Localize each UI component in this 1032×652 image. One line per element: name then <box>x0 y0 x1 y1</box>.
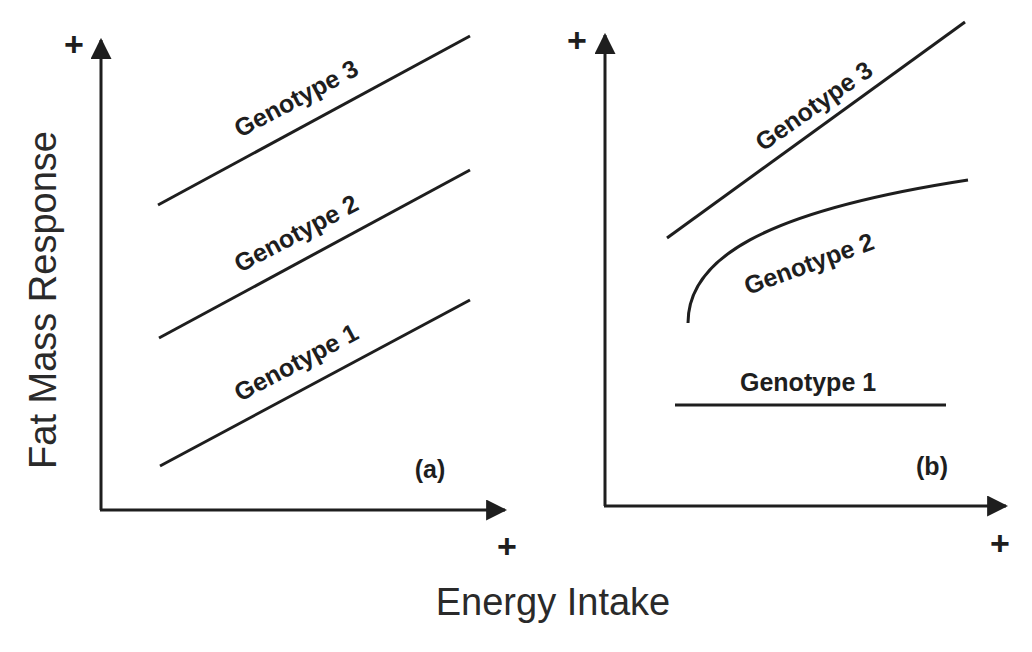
panel-a-genotype-3-line <box>158 36 470 205</box>
y-axis-title: Fat Mass Response <box>22 131 64 469</box>
panel-b-genotype-3-line <box>667 22 965 238</box>
panel-a-genotype-1-line <box>160 300 470 466</box>
panel-b: + + Genotype 3 Genotype 2 Genotype 1 (b) <box>567 21 1010 562</box>
panel-b-genotype-1-label: Genotype 1 <box>740 368 876 396</box>
panel-a-label: (a) <box>415 455 446 483</box>
panel-b-label: (b) <box>916 452 948 480</box>
figure-canvas: Fat Mass Response Energy Intake + + Geno… <box>0 0 1032 652</box>
panel-b-x-plus: + <box>990 524 1010 562</box>
panel-a-x-plus: + <box>497 527 517 565</box>
panel-b-genotype-3-label: Genotype 3 <box>750 55 878 156</box>
panel-a-genotype-2-line <box>159 170 470 338</box>
x-axis-title: Energy Intake <box>436 581 670 623</box>
panel-b-y-plus: + <box>567 21 587 59</box>
panel-a: + + Genotype 3 Genotype 2 Genotype 1 (a) <box>64 25 517 565</box>
panel-a-y-plus: + <box>64 25 84 63</box>
panel-b-genotype-2-label: Genotype 2 <box>740 227 878 300</box>
